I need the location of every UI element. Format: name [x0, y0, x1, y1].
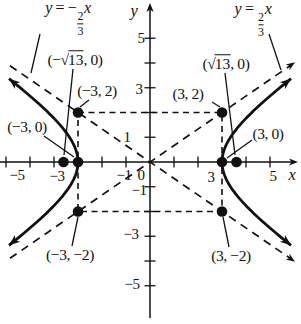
- asymptote-equation-label-left: y = −23x: [45, 0, 90, 37]
- equation-x-var: x: [265, 0, 272, 17]
- equation-relation: = −: [52, 0, 76, 16]
- label-text: , 0): [230, 55, 249, 72]
- radicand: 13: [68, 50, 84, 68]
- equation-y-var: y: [235, 0, 242, 17]
- marked-point: [58, 157, 69, 168]
- equation-y-var: y: [45, 0, 52, 16]
- fraction: 23: [258, 11, 264, 38]
- y-axis-label: y: [131, 3, 138, 20]
- y-tick-label-1: 1: [123, 130, 130, 145]
- y-tick-label-3: 3: [135, 82, 142, 97]
- fraction: 23: [77, 10, 83, 37]
- marked-point: [231, 157, 242, 168]
- point-label-pos3-neg2: (3, −2): [211, 248, 251, 264]
- marked-point: [73, 107, 84, 118]
- equation-relation: =: [241, 0, 257, 17]
- fraction-denominator: 3: [77, 26, 83, 38]
- point-label-neg3-0: (−3, 0): [7, 119, 47, 135]
- x-axis-label: x: [289, 167, 296, 184]
- label-text: (−: [47, 51, 60, 68]
- fraction-denominator: 3: [258, 27, 264, 39]
- x-tick-label-neg1: −1: [116, 168, 131, 183]
- marked-point: [217, 206, 228, 217]
- marked-point: [73, 157, 84, 168]
- point-label-neg-sqrt13-0: (−√13, 0): [47, 52, 102, 68]
- point-label-pos3-2: (3, 2): [172, 86, 203, 102]
- origin-label: 0: [137, 168, 144, 183]
- radicand: 13: [215, 54, 231, 72]
- asymptote-equation-label-right: y = 23x: [235, 1, 272, 38]
- y-tick-label-neg1: −1: [131, 183, 146, 198]
- fraction-numerator: 2: [77, 10, 83, 22]
- label-text: , 0): [84, 51, 103, 68]
- y-tick-label-5: 5: [137, 31, 144, 46]
- fraction-numerator: 2: [258, 11, 264, 23]
- point-label-neg3-2: (−3, 2): [77, 83, 117, 99]
- x-tick-label-5: 5: [269, 169, 276, 184]
- graph-canvas: [0, 0, 301, 324]
- y-tick-label-neg3: −3: [123, 227, 138, 242]
- point-label-pos3-0: (3, 0): [252, 126, 283, 142]
- hyperbola-figure: y = −23x y = 23x y x (−√13, 0) (√13, 0) …: [0, 0, 301, 324]
- point-label-neg3-neg2: (−3, −2): [46, 247, 94, 263]
- marked-point: [73, 206, 84, 217]
- y-tick-label-neg5: −5: [124, 277, 139, 292]
- point-label-pos-sqrt13-0: (√13, 0): [203, 56, 250, 72]
- marked-point: [217, 157, 228, 168]
- equation-x-var: x: [84, 0, 91, 16]
- marked-point: [217, 107, 228, 118]
